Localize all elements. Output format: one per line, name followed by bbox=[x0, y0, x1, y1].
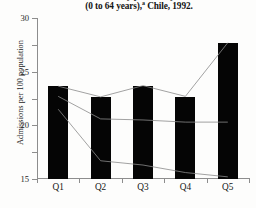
x-tick-label-q1: Q1 bbox=[53, 182, 64, 192]
x-tick-label-q5: Q5 bbox=[222, 182, 233, 192]
chart-figure: admissions ranked by potential years of … bbox=[0, 0, 256, 208]
chart-title-line-2-main: (0 to 64 years), bbox=[85, 1, 142, 11]
overlay-line-group bbox=[37, 18, 249, 179]
overlay-line-upper bbox=[58, 43, 228, 97]
chart-title-line-2-rest: Chile, 1992. bbox=[145, 1, 193, 11]
overlay-line-middle bbox=[58, 96, 228, 122]
y-axis-label: Admissions per 100 population bbox=[16, 13, 25, 173]
chart-title: admissions ranked by potential years of … bbox=[22, 0, 256, 11]
x-tick-mark bbox=[249, 178, 250, 183]
plot-area: 051015202530 Q1Q2Q3Q4Q5 bbox=[37, 18, 249, 179]
y-tick-label: 15 bbox=[20, 174, 29, 184]
y-tick-label: 25 bbox=[20, 67, 29, 77]
x-tick-label-q3: Q3 bbox=[137, 182, 148, 192]
y-tick-label: 30 bbox=[20, 13, 29, 23]
chart-title-line-2: (0 to 64 years),a Chile, 1992. bbox=[22, 2, 256, 12]
overlay-line-lower bbox=[58, 109, 228, 177]
x-tick-label-q4: Q4 bbox=[180, 182, 191, 192]
y-tick-label: 20 bbox=[20, 120, 29, 130]
x-tick-label-q2: Q2 bbox=[95, 182, 106, 192]
